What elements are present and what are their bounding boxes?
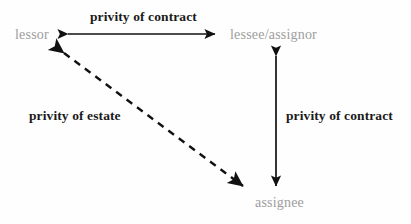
node-label-lessor: lessor	[15, 27, 49, 43]
privity-diagram: lessor lessee/assignor assignee privity …	[0, 0, 411, 224]
edge-label-privity-of-estate: privity of estate	[29, 108, 121, 124]
edge-label-privity-of-contract-right: privity of contract	[286, 108, 393, 124]
edge-label-privity-of-contract-top: privity of contract	[90, 9, 197, 25]
node-label-lessee-assignor: lessee/assignor	[230, 27, 317, 43]
node-label-assignee: assignee	[255, 195, 304, 211]
